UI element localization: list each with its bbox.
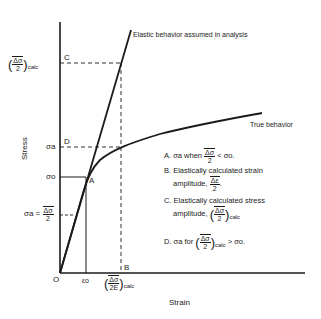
elastic-curve-label: Elastic behavior assumed in analysis — [133, 30, 247, 39]
y-tick-sigma-a-lower: σa = Δσ2 — [24, 206, 54, 222]
x-axis-label: Strain — [169, 298, 190, 307]
legend-item-c: C. Elastically calculated stress amplitu… — [164, 196, 265, 222]
legend-item-b: B. Elastically calculated strain amplitu… — [164, 166, 263, 192]
origin-label: O — [53, 275, 59, 284]
stress-strain-diagram — [0, 0, 321, 319]
point-c-label: C — [64, 53, 70, 62]
point-b-label: B — [124, 263, 129, 272]
x-tick-epsilon-o: εo — [82, 276, 89, 285]
point-a-label: A — [89, 176, 94, 185]
y-tick-calc-stress: (Δσ2)calc — [8, 56, 38, 72]
true-curve-label: True behavior — [250, 120, 293, 129]
legend-item-a: A. σa when Δσ2 < σo. — [164, 148, 235, 164]
y-tick-sigma-a-upper: σa — [46, 142, 55, 151]
legend-item-d: D. σa for (Δσ2)calc > σo. — [164, 234, 245, 250]
x-tick-calc-strain: (Δσ2E)calc — [104, 275, 134, 291]
y-axis-label: Stress — [20, 137, 29, 160]
point-d-label: D — [64, 137, 70, 146]
y-tick-sigma-o: σo — [46, 172, 55, 181]
